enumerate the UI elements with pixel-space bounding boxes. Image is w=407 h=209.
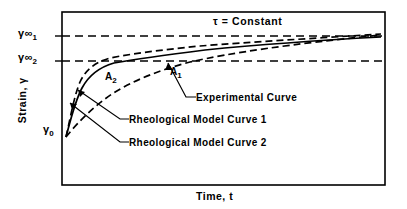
subscript: 2 — [32, 57, 37, 66]
y-axis-label: Strain, γ — [17, 60, 28, 140]
y-tick-gamma-zero: γ0 — [43, 124, 54, 138]
point-label-a1: A1 — [170, 67, 182, 80]
annotation-experimental-curve: Experimental Curve — [196, 93, 297, 103]
y-tick-gamma-infinity-1: γ∞1 — [18, 28, 37, 42]
leader-model-2 — [70, 103, 129, 142]
point-label-a2: A2 — [105, 72, 117, 85]
strain-time-figure: τ = Constant γ∞1 γ∞2 γ0 A1 A2 Experiment… — [0, 0, 407, 209]
condition-note: τ = Constant — [213, 16, 282, 27]
annotation-rheological-model-1: Rheological Model Curve 1 — [129, 115, 267, 125]
subscript: 0 — [49, 129, 53, 138]
plot-canvas — [0, 0, 407, 209]
subscript: 1 — [177, 71, 181, 80]
subscript: 2 — [112, 76, 116, 85]
annotation-rheological-model-2: Rheological Model Curve 2 — [129, 138, 267, 148]
gamma-glyph: γ — [18, 27, 25, 39]
x-axis-label: Time, t — [196, 191, 233, 202]
subscript: 1 — [32, 33, 37, 42]
